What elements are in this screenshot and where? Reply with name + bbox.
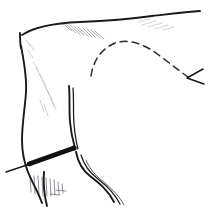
hatch-stroke (44, 104, 48, 116)
hatch-stroke (142, 21, 156, 25)
pin-layer (6, 145, 77, 172)
upper-right-hatch-group (62, 23, 104, 39)
hatch-stroke (51, 98, 56, 110)
hatch-stroke (58, 182, 59, 194)
hatch-stroke (66, 24, 76, 33)
hatch-stroke (39, 74, 46, 86)
hatch-stroke (50, 179, 51, 196)
hatch-stroke (40, 100, 44, 112)
hatch-stroke (26, 40, 30, 46)
hatch-stroke (74, 26, 84, 35)
left-edge-line (21, 46, 42, 203)
upper-left-corner-hatch-group (26, 40, 34, 58)
hatch-stroke (163, 27, 174, 30)
hatch-stroke (50, 194, 60, 195)
contour-layer (20, 11, 200, 206)
hatch-stroke (138, 19, 150, 22)
hatch-stroke (70, 25, 80, 34)
hatch-stroke (29, 43, 34, 50)
hatch-stroke (62, 184, 63, 193)
pin-bar (29, 148, 74, 164)
sketch-canvas (0, 0, 208, 212)
top-faint-hatch-group (138, 19, 174, 30)
hatch-stroke (33, 62, 38, 70)
pin-tip (71, 145, 76, 150)
arrowhead (187, 69, 204, 84)
left-inner-hatch-group (33, 62, 56, 116)
hatch-stroke (155, 25, 168, 29)
dashed-reference-line (91, 41, 188, 77)
hatch-stroke (62, 23, 72, 31)
upper-edge-line (22, 11, 200, 35)
hatch-stroke (56, 190, 66, 191)
hatch-stroke (36, 68, 42, 78)
shading-hatch-layer (26, 19, 174, 196)
ink-sketch-drawing (0, 0, 208, 212)
lower-right-edge-line-hair (86, 160, 124, 205)
hatch-stroke (28, 50, 33, 58)
reference-arrow-layer (91, 41, 204, 84)
hatch-stroke (48, 92, 54, 106)
hatch-stroke (54, 180, 55, 195)
hatch-stroke (148, 23, 162, 27)
hatch-stroke (46, 178, 47, 196)
